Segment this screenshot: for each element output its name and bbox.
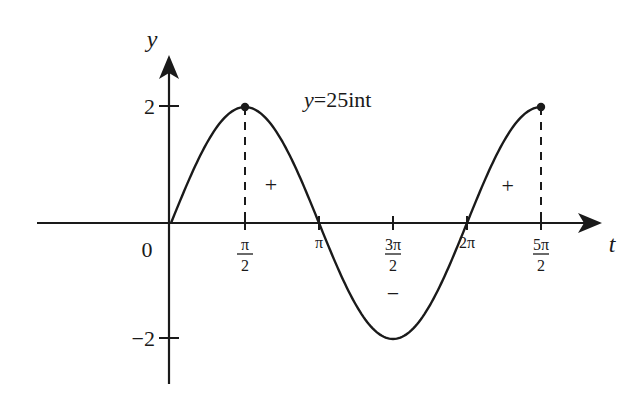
y-tick-label: 2 xyxy=(144,94,155,119)
sign-annotation: − xyxy=(387,281,399,306)
title-variable: y xyxy=(302,87,314,112)
marked-point-0 xyxy=(241,103,249,111)
x-tick-label: 2π xyxy=(459,234,475,251)
sign-annotation: + xyxy=(265,172,277,197)
x-tick-label-denominator: 2 xyxy=(537,257,545,274)
x-tick-label-numerator: 5π xyxy=(533,236,549,253)
title-expression: =25int xyxy=(314,87,372,112)
x-tick-label: π xyxy=(315,234,323,251)
origin-label: 0 xyxy=(142,237,153,262)
x-axis-label: t xyxy=(609,231,617,257)
sine-graph: π2π3π22π5π2 2−2 +−+ y=25int t y 0 xyxy=(0,0,644,401)
x-tick-label-numerator: 3π xyxy=(385,236,401,253)
marked-point-1 xyxy=(537,103,545,111)
y-axis-label: y xyxy=(145,26,158,52)
x-tick-label-numerator: π xyxy=(241,236,249,253)
dashed-guides xyxy=(245,107,541,223)
x-tick-label-denominator: 2 xyxy=(389,257,397,274)
x-tick-label-denominator: 2 xyxy=(241,257,249,274)
y-tick-label: −2 xyxy=(132,326,155,351)
chart-title: y=25int xyxy=(302,87,371,112)
marked-points xyxy=(241,103,545,111)
sign-annotation: + xyxy=(501,173,513,198)
x-ticks: π2π3π22π5π2 xyxy=(237,216,549,274)
